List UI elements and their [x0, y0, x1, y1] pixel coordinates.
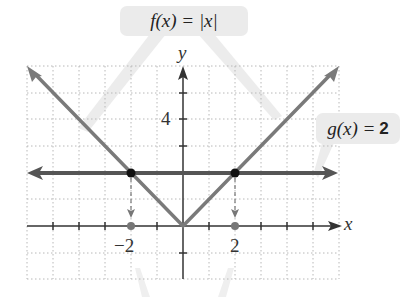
y-axis: [179, 74, 187, 279]
tick-label-2: 2: [230, 235, 240, 257]
tick-label-neg2: −2: [114, 235, 134, 257]
g-callout-value: 2: [379, 119, 388, 139]
intersection-point-2: [231, 169, 240, 178]
x-point-neg2: [127, 222, 135, 230]
bottom-pointer-left: [135, 268, 150, 297]
f-callout: f(x) = |x|: [120, 6, 248, 36]
g-callout: g(x) = 2: [316, 113, 400, 144]
y-axis-label: y: [178, 42, 186, 64]
g-callout-text: g(x) =: [327, 118, 375, 140]
f-callout-pointer-right: [198, 34, 282, 120]
bottom-pointer-right: [218, 268, 234, 297]
x-point-2: [231, 222, 239, 230]
intersection-point-neg2: [127, 169, 136, 178]
tick-label-4: 4: [161, 108, 171, 130]
graph-canvas: [0, 0, 414, 297]
f-callout-pointer-left: [78, 34, 166, 132]
x-axis-label: x: [344, 213, 352, 235]
f-callout-text: f(x) = |x|: [150, 10, 218, 32]
